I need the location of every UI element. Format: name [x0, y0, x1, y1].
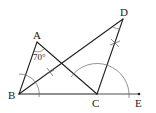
- label-d: D: [120, 6, 128, 18]
- segment-cd: [97, 19, 123, 94]
- angle-arc-d: [113, 27, 120, 29]
- label-e: E: [135, 97, 142, 109]
- label-a: A: [33, 29, 41, 41]
- label-b: B: [8, 89, 15, 101]
- angle-label-a: 70°: [33, 52, 46, 62]
- construction-arc-c: [71, 64, 129, 98]
- segment-ac: [37, 42, 97, 94]
- segment-ab: [19, 42, 37, 94]
- geometry-diagram: A B C D E 70°: [0, 0, 156, 113]
- construction-cross-2: [110, 39, 120, 47]
- label-c: C: [92, 97, 99, 109]
- point-e-dot: [138, 93, 141, 96]
